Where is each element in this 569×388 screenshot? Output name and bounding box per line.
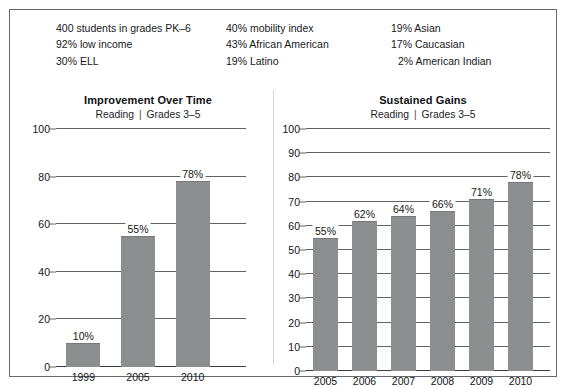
demographics-column-1: 400 students in grades PK–6 92% low inco…	[56, 20, 191, 69]
chart-subtitle-subject-left: Reading	[96, 109, 134, 120]
bar-slot: 78%	[501, 129, 540, 371]
bar[interactable]: 64%	[391, 216, 415, 371]
demographics-line: 30% ELL	[56, 53, 191, 69]
figure-frame: 400 students in grades PK–6 92% low inco…	[9, 9, 557, 377]
bar-value-label: 66%	[430, 198, 455, 210]
chart-subtitle-subject-right: Reading	[371, 109, 409, 120]
bar[interactable]: 71%	[469, 199, 493, 371]
demographics-line: 40% mobility index	[226, 20, 329, 36]
bar-slot: 10%	[56, 129, 111, 367]
x-axis-labels-left: 199920052010	[56, 371, 220, 383]
demographics-line: 19% Asian	[391, 20, 491, 36]
chart-subtitle-grades-left: Grades 3–5	[147, 109, 201, 120]
x-axis-tick-label: 1999	[56, 371, 111, 383]
x-axis-tick-label: 2010	[501, 375, 540, 387]
y-axis-tick-mark	[49, 367, 56, 368]
plot-area-right: 0102030405060708090100 55%62%64%66%71%78…	[278, 129, 568, 371]
bar-slot: 78%	[165, 129, 220, 367]
bar-value-label: 55%	[125, 223, 150, 235]
bar-slot: 66%	[423, 129, 462, 371]
y-axis-tick-mark	[299, 153, 306, 154]
chart-subtitle-separator-right: |	[409, 109, 422, 120]
demographics-summary: 400 students in grades PK–6 92% low inco…	[10, 20, 556, 80]
bar-value-label: 78%	[508, 169, 533, 181]
bar-slot: 55%	[306, 129, 345, 371]
y-axis-tick-mark	[49, 224, 56, 225]
y-axis-tick-label: 100	[282, 123, 300, 135]
x-axis-tick-label: 2005	[111, 371, 166, 383]
y-axis-tick-mark	[299, 274, 306, 275]
bar[interactable]: 10%	[66, 343, 100, 367]
x-axis-tick-label: 2005	[306, 375, 345, 387]
y-axis-tick-mark	[49, 271, 56, 272]
bar[interactable]: 66%	[430, 211, 454, 371]
bar-series-left: 10%55%78%	[56, 129, 220, 367]
bar-value-label: 64%	[391, 203, 416, 215]
bar-slot: 55%	[111, 129, 166, 367]
y-axis-tick-mark	[299, 129, 306, 130]
demographics-column-3: 19% Asian 17% Caucasian 2% American Indi…	[391, 20, 491, 69]
chart-subtitle-separator-left: |	[134, 109, 147, 120]
x-axis-labels-right: 200520062007200820092010	[306, 375, 540, 387]
chart-panel-improvement-over-time: Improvement Over Time Reading|Grades 3–5…	[24, 94, 272, 367]
y-axis-tick-mark	[299, 346, 306, 347]
demographics-line: 2% American Indian	[391, 53, 491, 69]
chart-subtitle-right: Reading|Grades 3–5	[278, 109, 568, 120]
bar[interactable]: 55%	[121, 236, 155, 367]
x-axis-tick-label: 2008	[423, 375, 462, 387]
chart-subtitle-grades-right: Grades 3–5	[422, 109, 476, 120]
bar-slot: 71%	[462, 129, 501, 371]
x-axis-tick-label: 2009	[462, 375, 501, 387]
bar-value-label: 71%	[469, 186, 494, 198]
y-axis-tick-mark	[49, 129, 56, 130]
y-axis-tick-mark	[299, 298, 306, 299]
bar-slot: 62%	[345, 129, 384, 371]
x-axis-tick-label: 2006	[345, 375, 384, 387]
bar-value-label: 62%	[352, 208, 377, 220]
x-axis-tick-label: 2007	[384, 375, 423, 387]
chart-title-left: Improvement Over Time	[24, 94, 272, 106]
bar-slot: 64%	[384, 129, 423, 371]
bar-series-right: 55%62%64%66%71%78%	[306, 129, 540, 371]
bar[interactable]: 62%	[352, 221, 376, 371]
y-axis-tick-mark	[299, 371, 306, 372]
demographics-line: 400 students in grades PK–6	[56, 20, 191, 36]
y-axis-labels-right: 0102030405060708090100	[278, 129, 300, 371]
demographics-line: 17% Caucasian	[391, 36, 491, 52]
y-axis-tick-mark	[299, 177, 306, 178]
demographics-column-2: 40% mobility index 43% African American …	[226, 20, 329, 69]
figure-page: 400 students in grades PK–6 92% low inco…	[0, 0, 569, 388]
y-axis-tick-label: 100	[32, 123, 50, 135]
bar[interactable]: 78%	[508, 182, 532, 371]
x-axis-tick-label: 2010	[165, 371, 220, 383]
y-axis-tick-mark	[299, 201, 306, 202]
chart-title-right: Sustained Gains	[278, 94, 568, 106]
demographics-line: 43% African American	[226, 36, 329, 52]
demographics-line: 19% Latino	[226, 53, 329, 69]
y-axis-tick-mark	[299, 322, 306, 323]
bar-value-label: 78%	[180, 168, 205, 180]
chart-panel-sustained-gains: Sustained Gains Reading|Grades 3–5 01020…	[278, 94, 568, 371]
bar[interactable]: 55%	[313, 238, 337, 371]
y-axis-tick-mark	[49, 319, 56, 320]
bar-value-label: 55%	[313, 225, 338, 237]
y-axis-tick-mark	[299, 225, 306, 226]
y-axis-labels-left: 020406080100	[24, 129, 50, 367]
bar-value-label: 10%	[71, 330, 96, 342]
y-axis-tick-mark	[49, 176, 56, 177]
y-axis-tick-mark	[299, 250, 306, 251]
demographics-line: 92% low income	[56, 36, 191, 52]
chart-subtitle-left: Reading|Grades 3–5	[24, 109, 272, 120]
plot-area-left: 020406080100 10%55%78% 199920052010	[24, 129, 272, 367]
bar[interactable]: 78%	[176, 181, 210, 367]
panel-divider	[273, 90, 274, 365]
